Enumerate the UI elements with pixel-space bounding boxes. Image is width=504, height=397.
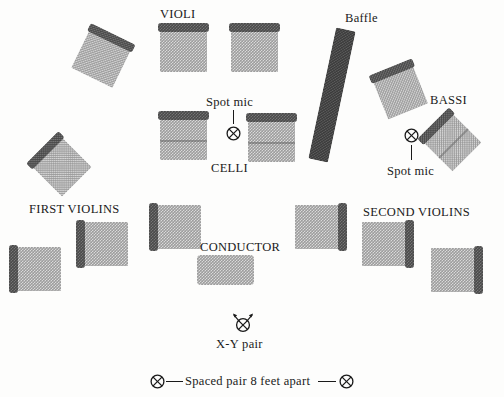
first-violins-riser-outer — [32, 137, 91, 196]
riser-edge-bar — [9, 245, 18, 293]
spaced-pair-leader-left — [166, 381, 183, 382]
orchestra-seating-diagram: VIOLI Baffle BASSI CELLI Spot mic — [0, 0, 504, 397]
conductor-podium — [197, 255, 254, 285]
spaced-pair-leader-right — [318, 381, 336, 382]
celli-riser-left — [160, 118, 207, 160]
riser-edge-bar — [158, 23, 210, 32]
xy-pair-group — [230, 310, 256, 338]
celli-riser-right — [248, 120, 295, 162]
section-label-bassi: BASSI — [430, 94, 467, 107]
bassi-riser-upper — [373, 65, 428, 119]
section-label-first-violins: FIRST VIOLINS — [29, 203, 120, 216]
riser-deck — [295, 205, 340, 249]
second-violins-riser-far-right — [431, 248, 476, 292]
first-violins-riser-far-left — [16, 247, 61, 291]
spaced-pair-mic-right-icon — [339, 374, 354, 389]
riser-edge-bar — [229, 23, 281, 32]
second-violins-riser-inner — [295, 205, 340, 249]
riser-deck — [160, 30, 207, 72]
violi-riser-center-right — [231, 30, 278, 72]
riser-edge-bar — [405, 220, 414, 268]
conductor-label: CONDUCTOR — [200, 241, 280, 254]
baffle-label: Baffle — [345, 12, 378, 25]
spot-mic-celli-leader-line — [233, 110, 234, 124]
spot-mic-celli-label: Spot mic — [206, 96, 253, 109]
riser-deck — [197, 255, 254, 285]
bassi-riser-lower — [424, 114, 482, 172]
riser-edge-bar — [149, 203, 158, 251]
violi-riser-left-outer — [71, 30, 131, 88]
spot-mic-celli-icon — [226, 126, 241, 141]
violi-riser-center-left — [160, 30, 207, 72]
spaced-pair-mic-left-icon — [150, 374, 165, 389]
section-label-celli: CELLI — [211, 162, 248, 175]
spot-mic-bassi-leader-line — [411, 145, 412, 160]
first-violins-riser-inner — [156, 205, 201, 249]
riser-edge-bar — [474, 246, 483, 294]
riser-edge-bar — [338, 203, 347, 251]
baffle-panel — [308, 27, 355, 162]
riser-deck — [231, 30, 278, 72]
xy-pair-mic-icon — [230, 310, 256, 334]
riser-edge-bar — [76, 220, 85, 268]
riser-seam — [160, 140, 207, 142]
riser-edge-bar — [246, 113, 298, 122]
first-violins-riser-mid — [83, 222, 128, 266]
section-label-second-violins: SECOND VIOLINS — [363, 206, 470, 219]
riser-deck — [16, 247, 61, 291]
riser-deck — [83, 222, 128, 266]
riser-edge-bar — [158, 111, 210, 120]
riser-seam — [248, 142, 295, 144]
riser-deck — [431, 248, 476, 292]
spaced-pair-label: Spaced pair 8 feet apart — [185, 375, 310, 388]
spot-mic-bassi-icon — [404, 128, 419, 143]
riser-deck — [156, 205, 201, 249]
riser-deck — [362, 222, 407, 266]
second-violins-riser-mid — [362, 222, 407, 266]
xy-pair-label: X-Y pair — [216, 338, 263, 351]
spot-mic-bassi-label: Spot mic — [387, 165, 434, 178]
section-label-violi: VIOLI — [160, 8, 196, 21]
